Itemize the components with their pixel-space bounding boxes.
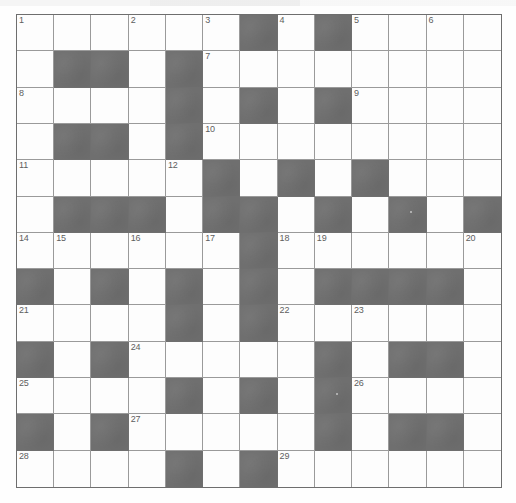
- grid-letter-cell[interactable]: [203, 305, 240, 341]
- grid-letter-cell[interactable]: [427, 88, 464, 124]
- grid-letter-cell[interactable]: [54, 451, 91, 487]
- grid-letter-cell[interactable]: [129, 124, 166, 160]
- grid-letter-cell[interactable]: [278, 269, 315, 305]
- grid-letter-cell[interactable]: [91, 233, 128, 269]
- grid-letter-cell[interactable]: [91, 88, 128, 124]
- grid-letter-cell[interactable]: [464, 269, 501, 305]
- grid-letter-cell[interactable]: [54, 160, 91, 196]
- grid-letter-cell[interactable]: 17: [203, 233, 240, 269]
- grid-letter-cell[interactable]: [240, 160, 277, 196]
- grid-letter-cell[interactable]: 10: [203, 124, 240, 160]
- grid-letter-cell[interactable]: [464, 378, 501, 414]
- grid-letter-cell[interactable]: 24: [129, 342, 166, 378]
- grid-letter-cell[interactable]: [91, 305, 128, 341]
- grid-letter-cell[interactable]: [54, 269, 91, 305]
- grid-letter-cell[interactable]: [352, 197, 389, 233]
- grid-letter-cell[interactable]: [352, 233, 389, 269]
- grid-letter-cell[interactable]: [166, 197, 203, 233]
- grid-letter-cell[interactable]: 23: [352, 305, 389, 341]
- grid-letter-cell[interactable]: [91, 378, 128, 414]
- grid-letter-cell[interactable]: [464, 305, 501, 341]
- grid-letter-cell[interactable]: 8: [17, 88, 54, 124]
- grid-letter-cell[interactable]: [54, 342, 91, 378]
- grid-letter-cell[interactable]: [278, 51, 315, 87]
- grid-letter-cell[interactable]: [91, 451, 128, 487]
- grid-letter-cell[interactable]: [464, 88, 501, 124]
- grid-letter-cell[interactable]: [54, 15, 91, 51]
- grid-letter-cell[interactable]: 28: [17, 451, 54, 487]
- grid-letter-cell[interactable]: [203, 342, 240, 378]
- grid-letter-cell[interactable]: [129, 160, 166, 196]
- grid-letter-cell[interactable]: [54, 414, 91, 450]
- grid-letter-cell[interactable]: [427, 197, 464, 233]
- grid-letter-cell[interactable]: [278, 342, 315, 378]
- grid-letter-cell[interactable]: [389, 124, 426, 160]
- grid-letter-cell[interactable]: [166, 342, 203, 378]
- grid-letter-cell[interactable]: [464, 160, 501, 196]
- grid-letter-cell[interactable]: 11: [17, 160, 54, 196]
- grid-letter-cell[interactable]: [427, 305, 464, 341]
- grid-letter-cell[interactable]: [389, 160, 426, 196]
- grid-letter-cell[interactable]: [352, 414, 389, 450]
- grid-letter-cell[interactable]: 19: [315, 233, 352, 269]
- grid-letter-cell[interactable]: [278, 197, 315, 233]
- grid-letter-cell[interactable]: [278, 414, 315, 450]
- grid-letter-cell[interactable]: [464, 342, 501, 378]
- grid-letter-cell[interactable]: [240, 342, 277, 378]
- grid-letter-cell[interactable]: [17, 197, 54, 233]
- grid-letter-cell[interactable]: 3: [203, 15, 240, 51]
- grid-letter-cell[interactable]: 20: [464, 233, 501, 269]
- grid-letter-cell[interactable]: 22: [278, 305, 315, 341]
- grid-letter-cell[interactable]: [315, 160, 352, 196]
- grid-letter-cell[interactable]: 25: [17, 378, 54, 414]
- grid-letter-cell[interactable]: [464, 414, 501, 450]
- grid-letter-cell[interactable]: [352, 124, 389, 160]
- grid-letter-cell[interactable]: [464, 451, 501, 487]
- grid-letter-cell[interactable]: [129, 269, 166, 305]
- grid-letter-cell[interactable]: 4: [278, 15, 315, 51]
- grid-letter-cell[interactable]: [166, 233, 203, 269]
- grid-letter-cell[interactable]: 16: [129, 233, 166, 269]
- grid-letter-cell[interactable]: 18: [278, 233, 315, 269]
- grid-letter-cell[interactable]: [389, 51, 426, 87]
- grid-letter-cell[interactable]: [129, 51, 166, 87]
- grid-letter-cell[interactable]: [54, 88, 91, 124]
- crossword-grid[interactable]: 1234567891011121415161718192021222324252…: [16, 14, 502, 488]
- grid-letter-cell[interactable]: [240, 51, 277, 87]
- grid-letter-cell[interactable]: [203, 378, 240, 414]
- grid-letter-cell[interactable]: [427, 124, 464, 160]
- grid-letter-cell[interactable]: [203, 88, 240, 124]
- grid-letter-cell[interactable]: [54, 378, 91, 414]
- grid-letter-cell[interactable]: [427, 160, 464, 196]
- grid-letter-cell[interactable]: [464, 124, 501, 160]
- grid-letter-cell[interactable]: [17, 124, 54, 160]
- grid-letter-cell[interactable]: [352, 451, 389, 487]
- grid-letter-cell[interactable]: 26: [352, 378, 389, 414]
- grid-letter-cell[interactable]: [315, 305, 352, 341]
- grid-letter-cell[interactable]: [278, 124, 315, 160]
- grid-letter-cell[interactable]: [389, 233, 426, 269]
- grid-letter-cell[interactable]: [427, 451, 464, 487]
- grid-letter-cell[interactable]: [91, 160, 128, 196]
- grid-letter-cell[interactable]: [427, 378, 464, 414]
- grid-letter-cell[interactable]: [427, 51, 464, 87]
- grid-letter-cell[interactable]: [389, 451, 426, 487]
- grid-letter-cell[interactable]: [315, 124, 352, 160]
- grid-letter-cell[interactable]: 2: [129, 15, 166, 51]
- grid-letter-cell[interactable]: [389, 378, 426, 414]
- grid-letter-cell[interactable]: [129, 305, 166, 341]
- grid-letter-cell[interactable]: [91, 15, 128, 51]
- grid-letter-cell[interactable]: [17, 51, 54, 87]
- grid-letter-cell[interactable]: 1: [17, 15, 54, 51]
- grid-letter-cell[interactable]: [352, 51, 389, 87]
- grid-letter-cell[interactable]: [240, 414, 277, 450]
- grid-letter-cell[interactable]: [389, 15, 426, 51]
- grid-letter-cell[interactable]: 5: [352, 15, 389, 51]
- grid-letter-cell[interactable]: [203, 269, 240, 305]
- grid-letter-cell[interactable]: [129, 378, 166, 414]
- grid-letter-cell[interactable]: [389, 88, 426, 124]
- grid-letter-cell[interactable]: [464, 51, 501, 87]
- grid-letter-cell[interactable]: [166, 414, 203, 450]
- grid-letter-cell[interactable]: [278, 378, 315, 414]
- grid-letter-cell[interactable]: [203, 451, 240, 487]
